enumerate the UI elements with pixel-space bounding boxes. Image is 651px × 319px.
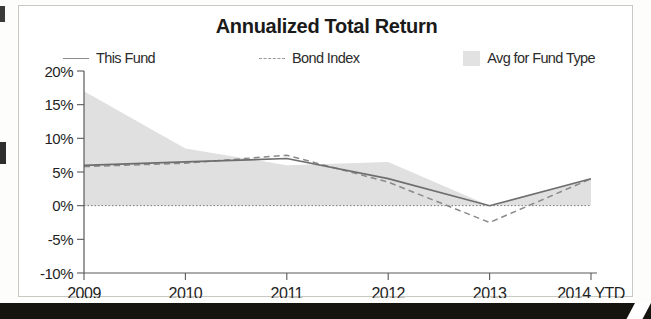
scan-edge-artifact-top <box>0 6 5 22</box>
x-axis-label: 2009 <box>67 285 101 298</box>
scan-bottom-dark-bar <box>0 303 651 319</box>
y-axis-label: 0% <box>52 197 73 214</box>
y-axis-label: 20% <box>44 63 73 80</box>
y-axis-label: -10% <box>40 265 73 282</box>
x-axis-label: 2013 <box>473 285 507 298</box>
scanned-page-background: Annualized Total Return This Fund Bond I… <box>0 0 651 319</box>
y-axis-tick-labels: 20%15%10%5%0%-5%-10% <box>40 63 84 282</box>
y-axis-label: 15% <box>44 96 73 113</box>
chart-container: Annualized Total Return This Fund Bond I… <box>18 5 633 297</box>
x-axis-label: 2011 <box>271 285 304 298</box>
x-axis-tick-labels: 200920102011201220132014 YTD <box>67 273 625 298</box>
y-axis-label: 5% <box>52 164 73 181</box>
chart-plot-svg: 20%15%10%5%0%-5%-10% 2009201020112012201… <box>19 6 634 298</box>
scan-edge-artifact-middle <box>0 142 6 164</box>
y-axis-label: -5% <box>48 231 73 248</box>
x-axis-label: 2010 <box>169 285 203 298</box>
plot-area: 20%15%10%5%0%-5%-10% 2009201020112012201… <box>19 6 634 298</box>
series-avg-for-fund-type <box>84 91 591 206</box>
x-axis-label: 2014 YTD <box>557 285 625 298</box>
x-axis-label: 2012 <box>371 285 405 298</box>
y-axis-label: 10% <box>44 130 73 147</box>
